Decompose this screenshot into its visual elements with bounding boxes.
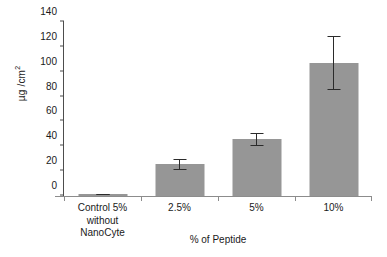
x-axis-category-label-line: without	[64, 215, 141, 228]
y-axis-title: µg /cm2	[16, 49, 27, 119]
x-axis-tick-mark	[141, 196, 142, 201]
y-axis-tick-label: 100	[40, 55, 64, 66]
y-axis-tick-label: 80	[46, 80, 64, 91]
x-axis-tick-slot	[64, 196, 141, 201]
y-axis-tick-label: 20	[46, 155, 64, 166]
y-axis-tick-label: 40	[46, 130, 64, 141]
error-bar-cap-top	[173, 159, 186, 160]
x-axis-tick-slot	[295, 196, 372, 201]
x-axis-tick-mark	[64, 196, 65, 201]
x-axis-tick-mark	[371, 196, 372, 201]
error-bar-stem	[333, 36, 334, 91]
x-axis-category-label-line: Control 5%	[64, 202, 141, 215]
bar-group	[218, 22, 295, 196]
x-axis-category-label-line: 10%	[295, 202, 372, 215]
x-axis-ticks	[64, 196, 372, 201]
error-bar-cap-top	[327, 36, 340, 37]
error-bar	[327, 36, 340, 91]
y-axis-title-text: µg /cm	[16, 70, 27, 101]
error-bar-cap-bottom	[327, 89, 340, 90]
bar	[232, 139, 281, 196]
bar-chart: µg /cm2 020406080100120140 Control 5%wit…	[0, 0, 387, 257]
bar-group	[141, 22, 218, 196]
bar-series	[64, 22, 372, 196]
error-bar-cap-bottom	[96, 194, 109, 195]
error-bar-cap-bottom	[250, 145, 263, 146]
x-axis-tick-slot	[218, 196, 295, 201]
x-axis-category-label-line: 5%	[218, 202, 295, 215]
y-axis-title-exponent: 2	[14, 66, 21, 70]
x-axis-tick-slot	[141, 196, 218, 201]
bar-group	[64, 22, 141, 196]
error-bar	[173, 159, 186, 170]
error-bar-cap-bottom	[173, 169, 186, 170]
y-axis-tick-label: 60	[46, 105, 64, 116]
x-axis-category-label-line: 2.5%	[141, 202, 218, 215]
error-bar-cap-top	[250, 133, 263, 134]
x-axis-tick-mark	[218, 196, 219, 201]
x-axis-title: % of Peptide	[64, 234, 372, 245]
error-bar	[96, 194, 109, 195]
plot-area: 020406080100120140	[64, 22, 372, 196]
y-axis-tick-label: 140	[40, 6, 64, 17]
x-axis-tick-mark	[295, 196, 296, 201]
error-bar	[250, 133, 263, 145]
y-axis-tick-label: 0	[51, 180, 64, 191]
y-axis-tick-label: 120	[40, 30, 64, 41]
bar-group	[295, 22, 372, 196]
